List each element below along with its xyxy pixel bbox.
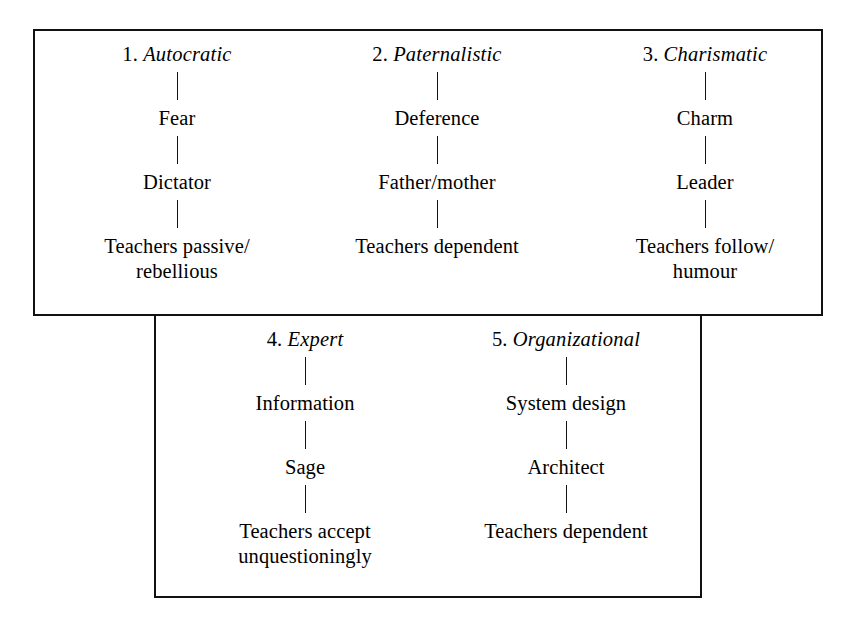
node-level-2: Father/mother [307, 170, 567, 194]
column-number: 3. [643, 43, 659, 65]
node-level-1: System design [436, 391, 696, 415]
connector-line [437, 72, 438, 100]
connector-line [566, 485, 567, 513]
connector-line [305, 421, 306, 449]
connector-line [566, 357, 567, 385]
connector-line [437, 200, 438, 228]
connector-line [437, 136, 438, 164]
column-number: 4. [267, 328, 283, 350]
node-level-1: Charm [575, 106, 835, 130]
column-heading: 3. Charismatic [575, 42, 835, 66]
column-title: Charismatic [664, 43, 768, 65]
column-title: Expert [287, 328, 343, 350]
column-number: 1. [122, 43, 138, 65]
connector-line [705, 200, 706, 228]
connector-line [566, 421, 567, 449]
node-level-3: Teachers accept unquestioningly [175, 519, 435, 569]
node-level-1: Fear [47, 106, 307, 130]
style-column-expert: 4. Expert Information Sage Teachers acce… [175, 327, 435, 569]
style-column-paternalistic: 2. Paternalistic Deference Father/mother… [307, 42, 567, 259]
column-number: 2. [372, 43, 388, 65]
column-heading: 1. Autocratic [47, 42, 307, 66]
column-heading: 2. Paternalistic [307, 42, 567, 66]
node-level-2: Dictator [47, 170, 307, 194]
connector-line [305, 357, 306, 385]
column-title: Autocratic [143, 43, 232, 65]
node-level-1: Information [175, 391, 435, 415]
connector-line [177, 136, 178, 164]
node-level-2: Architect [436, 455, 696, 479]
connector-line [705, 136, 706, 164]
node-level-2: Sage [175, 455, 435, 479]
node-level-3: Teachers dependent [436, 519, 696, 544]
column-title: Organizational [513, 328, 640, 350]
style-column-organizational: 5. Organizational System design Architec… [436, 327, 696, 544]
column-heading: 5. Organizational [436, 327, 696, 351]
node-level-3: Teachers dependent [307, 234, 567, 259]
node-level-2: Leader [575, 170, 835, 194]
style-column-autocratic: 1. Autocratic Fear Dictator Teachers pas… [47, 42, 307, 284]
column-number: 5. [492, 328, 508, 350]
node-level-1: Deference [307, 106, 567, 130]
node-level-3: Teachers passive/ rebellious [47, 234, 307, 284]
diagram-canvas: 1. Autocratic Fear Dictator Teachers pas… [0, 0, 850, 624]
connector-line [705, 72, 706, 100]
connector-line [177, 72, 178, 100]
style-column-charismatic: 3. Charismatic Charm Leader Teachers fol… [575, 42, 835, 284]
connector-line [305, 485, 306, 513]
column-title: Paternalistic [393, 43, 502, 65]
column-heading: 4. Expert [175, 327, 435, 351]
node-level-3: Teachers follow/ humour [575, 234, 835, 284]
connector-line [177, 200, 178, 228]
